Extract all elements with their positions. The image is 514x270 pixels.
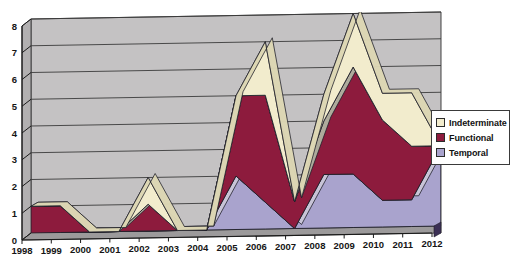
x-tick-label: 2006 <box>246 241 267 252</box>
x-tick-label: 2005 <box>216 242 238 253</box>
x-tick-label: 2012 <box>421 238 442 249</box>
legend-swatch-functional <box>436 133 445 142</box>
legend-item-functional: Functional <box>436 130 505 145</box>
y-tick-label: 1 <box>12 208 18 219</box>
y-tick-label: 4 <box>12 128 18 139</box>
y-tick-label: 6 <box>12 74 17 85</box>
legend-label-functional: Functional <box>449 133 494 143</box>
x-tick-label: 2000 <box>70 244 91 255</box>
y-tick-label: 8 <box>12 21 17 32</box>
legend-item-indeterminate: Indeterminate <box>436 115 505 130</box>
chart-legend: Indeterminate Functional Temporal <box>431 110 510 165</box>
x-tick-label: 2002 <box>129 243 150 254</box>
x-tick-labels: 1998199920002001200220032004200520062007… <box>11 238 442 256</box>
y-tick-label: 0 <box>12 235 17 246</box>
x-tick-label: 2008 <box>304 240 325 251</box>
x-tick-label: 1998 <box>11 245 32 256</box>
x-tick-label: 2011 <box>392 239 413 250</box>
legend-label-indeterminate: Indeterminate <box>449 118 507 128</box>
x-tick-label: 1999 <box>41 245 62 256</box>
stacked-area-chart: 012345678 199819992000200120022003200420… <box>0 0 514 270</box>
legend-label-temporal: Temporal <box>449 148 488 158</box>
x-tick-label: 2003 <box>158 243 179 254</box>
legend-swatch-indeterminate <box>436 118 445 127</box>
y-tick-label: 7 <box>12 47 17 58</box>
x-tick-label: 2004 <box>187 242 209 253</box>
x-tick-label: 2009 <box>334 240 355 251</box>
x-tick-label: 2010 <box>363 239 384 250</box>
y-tick-label: 5 <box>12 101 18 112</box>
y-tick-label: 3 <box>12 154 17 165</box>
y-tick-label: 2 <box>12 181 17 192</box>
x-tick-label: 2001 <box>99 244 121 255</box>
y-tick-labels: 012345678 <box>12 21 18 246</box>
legend-item-temporal: Temporal <box>436 145 505 160</box>
legend-swatch-temporal <box>436 148 445 157</box>
x-tick-label: 2007 <box>275 241 296 252</box>
